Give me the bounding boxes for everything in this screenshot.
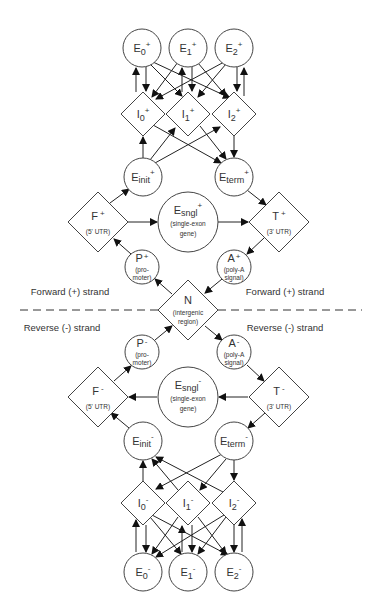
svg-text:signal): signal)	[224, 359, 243, 367]
node-Eterm-plus: Eterm+	[215, 158, 253, 196]
node-E1-minus: E1-	[169, 553, 207, 591]
node-E0-minus: E0-	[124, 553, 162, 591]
svg-text:(single-exon: (single-exon	[170, 395, 206, 403]
gene-model-diagram: E0+ E1+ E2+ I0+ I1+ I2+ Einit+ Eterm+ F+…	[0, 0, 373, 609]
node-Esngl-plus: Esngl+ (single-exon gene)	[158, 192, 218, 252]
svg-text:(3' UTR): (3' UTR)	[267, 403, 291, 411]
svg-text:N: N	[184, 294, 192, 306]
node-P-plus: P+ (pro- moter)	[125, 250, 159, 284]
svg-text:region): region)	[178, 318, 198, 326]
svg-text:(5' UTR): (5' UTR)	[86, 403, 110, 411]
node-A-plus: A+ (poly-A signal)	[217, 250, 251, 284]
svg-text:gene): gene)	[180, 230, 197, 238]
node-I1-plus: I1+	[166, 92, 210, 136]
svg-text:moter): moter)	[133, 359, 152, 367]
label-forward-left: Forward (+) strand	[31, 286, 109, 297]
svg-text:(single-exon: (single-exon	[170, 220, 206, 228]
label-forward-right: Forward (+) strand	[246, 286, 324, 297]
svg-text:signal): signal)	[224, 274, 243, 282]
svg-text:(poly-A: (poly-A	[224, 351, 245, 359]
label-reverse-left: Reverse (-) strand	[24, 322, 101, 333]
node-Einit-plus: Einit+	[124, 158, 162, 196]
svg-text:(5' UTR): (5' UTR)	[86, 228, 110, 236]
node-E2-minus: E2-	[215, 553, 253, 591]
node-I1-minus: I1-	[166, 481, 210, 525]
svg-text:gene): gene)	[180, 405, 197, 413]
node-Esngl-minus: Esngl- (single-exon gene)	[158, 367, 218, 427]
svg-text:(poly-A: (poly-A	[224, 266, 245, 274]
node-E2-plus: E2+	[215, 29, 253, 67]
svg-text:(3' UTR): (3' UTR)	[267, 228, 291, 236]
node-Eterm-minus: Eterm-	[215, 422, 253, 460]
node-A-minus: A- (poly-A signal)	[217, 335, 251, 369]
node-P-minus: P- (pro- moter)	[125, 335, 159, 369]
svg-text:moter): moter)	[133, 274, 152, 282]
node-Einit-minus: Einit-	[124, 422, 162, 460]
node-E1-plus: E1+	[169, 29, 207, 67]
svg-text:(intergenic: (intergenic	[173, 309, 204, 317]
label-reverse-right: Reverse (-) strand	[247, 322, 324, 333]
node-E0-plus: E0+	[123, 29, 161, 67]
node-I2-plus: I2+	[212, 92, 256, 136]
svg-text:(pro-: (pro-	[135, 351, 149, 359]
node-I0-plus: I0+	[121, 92, 165, 136]
svg-text:(pro-: (pro-	[135, 266, 149, 274]
